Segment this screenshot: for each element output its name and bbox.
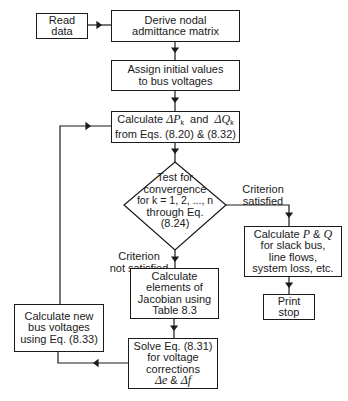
text-part: & [167, 374, 180, 386]
delta-q: ΔQ [215, 112, 231, 126]
node-text: Assign initial values [128, 64, 224, 76]
label-text: Criterion [238, 184, 288, 196]
derive-admittance-box: Derive nodal admittance matrix [111, 10, 240, 42]
text-part: & [310, 228, 323, 240]
node-text: using Eq. (8.33) [20, 334, 98, 346]
test-convergence-text: Test for convergence for k = 1, 2, ..., … [124, 172, 226, 230]
subscript: k [230, 119, 234, 126]
node-text: Test for [124, 172, 226, 184]
node-text: admittance matrix [132, 26, 219, 38]
calc-mismatch-box: Calculate ΔPk and ΔQk from Eqs. (8.20) &… [111, 111, 240, 143]
text-part: Calculate [254, 228, 303, 240]
text-part: and [184, 113, 215, 125]
node-text: elements of [146, 282, 203, 294]
node-text: stop [279, 307, 300, 319]
delta-e: Δe [155, 373, 167, 387]
label-text: Criterion [106, 251, 172, 263]
node-text: to bus voltages [139, 76, 213, 88]
text-part: Calculate [117, 113, 166, 125]
solve-corrections-box: Solve Eq. (8.31) for voltage corrections… [128, 338, 218, 389]
node-text: for slack bus, [261, 240, 326, 252]
node-text: for k = 1, 2, ..., n [124, 195, 226, 207]
node-text: system loss, etc. [252, 263, 333, 275]
node-text: Calculate ΔPk and ΔQk [117, 114, 234, 129]
node-text: from Eqs. (8.20) & (8.32) [115, 129, 236, 141]
node-text: Table 8.3 [152, 305, 197, 317]
delta-p: ΔP [166, 112, 180, 126]
calc-jacobian-box: Calculate elements of Jacobian using Tab… [130, 268, 219, 319]
assign-initial-box: Assign initial values to bus voltages [111, 60, 240, 91]
label-text: satisfied [238, 196, 288, 208]
node-text: (8.24) [124, 218, 226, 230]
delta-f: Δf [181, 373, 191, 387]
criterion-satisfied-label: Criterion satisfied [238, 184, 288, 207]
node-text: Δe & Δf [155, 375, 191, 387]
print-stop-box: Print stop [263, 294, 315, 320]
calc-pq-box: Calculate P & Q for slack bus, line flow… [244, 226, 342, 277]
node-text: for voltage [147, 352, 198, 364]
read-data-box: Read data [36, 13, 88, 39]
node-text: data [51, 26, 72, 38]
calc-new-voltages-box: Calculate new bus voltages using Eq. (8.… [14, 304, 104, 352]
